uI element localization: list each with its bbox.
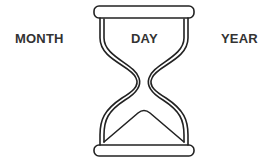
year-label: YEAR (221, 31, 258, 46)
day-label: DAY (131, 31, 158, 46)
month-label: MONTH (15, 31, 64, 46)
hourglass-icon (0, 0, 272, 166)
